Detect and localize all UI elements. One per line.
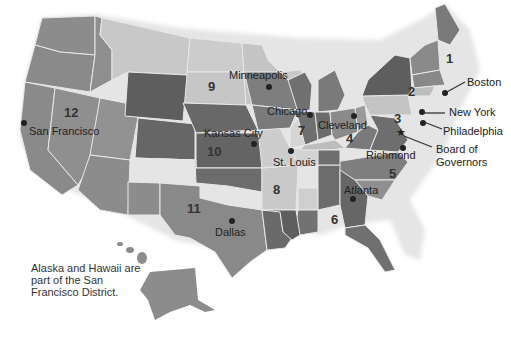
district-number-6: 6 [331,213,338,226]
hawaii [117,242,147,264]
label-minneapolis: Minneapolis [229,70,288,81]
san-francisco-dot [21,120,27,126]
minneapolis-dot [266,84,272,90]
label-atlanta: Atlanta [344,185,378,196]
district-number-3: 3 [394,112,401,125]
label-kansas-city: Kansas City [204,128,263,139]
kansas-city-dot [251,141,257,147]
label-dallas: Dallas [215,227,246,238]
district-number-7: 7 [298,124,305,137]
label-cleveland: Cleveland [318,120,367,131]
district-number-12: 12 [64,106,78,119]
boston-dot [442,90,448,96]
label-new-york: New York [449,107,495,118]
district-number-11: 11 [187,202,201,215]
district-number-9: 9 [208,80,215,93]
board-line-2: Governors [436,156,487,168]
label-san-francisco: San Francisco [29,126,99,137]
district-number-2: 2 [408,85,415,98]
district-number-10: 10 [207,145,221,158]
district-number-8: 8 [273,183,280,196]
district-3 [362,95,412,115]
district-number-1: 1 [446,52,453,65]
district-number-4: 4 [346,132,353,145]
chicago-dot [307,112,313,118]
new-york-dot [419,109,425,115]
philadelphia-dot [420,120,426,126]
st-louis-dot [288,148,294,154]
district-number-5: 5 [389,167,396,180]
label-st-louis: St. Louis [273,157,316,168]
board-line-1: Board of [436,143,478,155]
alaska [140,268,215,320]
board-star-icon: ★ [396,126,406,139]
atlanta-dot [350,196,356,202]
dallas-dot [229,218,235,224]
alaska-hawaii-note: Alaska and Hawaii are part of the San Fr… [31,262,141,298]
label-richmond: Richmond [366,150,416,161]
label-board-of-governors: Board of Governors [436,143,487,169]
label-philadelphia: Philadelphia [443,126,503,137]
label-chicago: Chicago [267,106,307,117]
label-boston: Boston [467,77,501,88]
